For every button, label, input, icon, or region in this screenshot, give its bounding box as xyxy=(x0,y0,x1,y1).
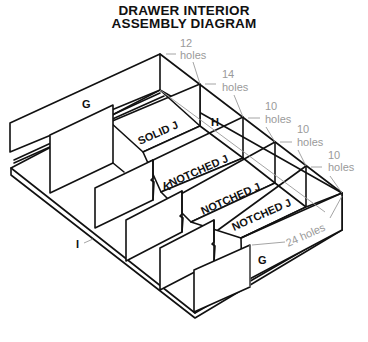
svg-text:holes: holes xyxy=(222,81,249,93)
svg-text:holes: holes xyxy=(180,49,207,61)
floor-label: I xyxy=(76,238,93,250)
assembly-diagram: G SOLID J H NOTCHED J NOTCHED J NOTCHED … xyxy=(0,0,368,342)
svg-text:14: 14 xyxy=(222,68,234,80)
label-h: H xyxy=(211,116,219,128)
svg-text:10: 10 xyxy=(265,100,277,112)
svg-text:holes: holes xyxy=(297,136,324,148)
svg-text:10: 10 xyxy=(297,123,309,135)
callout-12-holes: 12 holes xyxy=(166,37,207,84)
label-k: K xyxy=(163,180,171,192)
svg-text:10: 10 xyxy=(328,149,340,161)
label-back-g: G xyxy=(82,98,91,110)
callout-10-holes-1: 10 holes xyxy=(248,100,292,142)
svg-text:12: 12 xyxy=(180,37,192,49)
callout-10-holes-2: 10 holes xyxy=(280,123,324,166)
svg-text:holes: holes xyxy=(265,113,292,125)
svg-text:holes: holes xyxy=(328,161,355,173)
label-front-g: G xyxy=(258,254,267,266)
svg-text:I: I xyxy=(76,238,79,250)
